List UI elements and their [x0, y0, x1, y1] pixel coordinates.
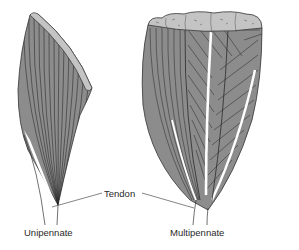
unipennate-muscle [18, 13, 92, 225]
tendon-label: Tendon [104, 188, 135, 199]
multipennate-muscle [142, 12, 262, 225]
muscle-diagram [0, 0, 299, 250]
unipennate-label: Unipennate [24, 227, 73, 238]
multipennate-label: Multipennate [170, 227, 224, 238]
